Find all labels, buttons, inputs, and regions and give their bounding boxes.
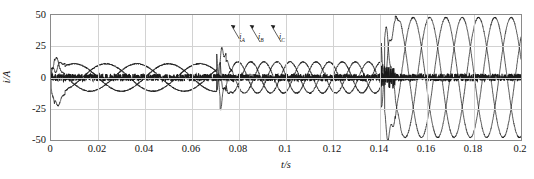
gridline-horizontal xyxy=(51,78,521,79)
x-tick-label: 0.1 xyxy=(278,143,291,154)
x-tick-label: 0.14 xyxy=(370,143,388,154)
y-tick-label: 25 xyxy=(36,40,47,51)
series-label-a: iA xyxy=(239,33,245,43)
y-tick-label: -25 xyxy=(32,102,46,113)
x-tick-label: 0.18 xyxy=(464,143,482,154)
gridline-horizontal xyxy=(51,46,521,47)
series-label-c: iC xyxy=(279,33,285,43)
x-tick-label: 0.08 xyxy=(229,143,247,154)
x-tick-label: 0.16 xyxy=(417,143,435,154)
x-tick-label: 0 xyxy=(47,143,52,154)
y-axis-label: i/A xyxy=(1,71,12,83)
x-tick-label: 0.12 xyxy=(323,143,341,154)
y-tick-label: -50 xyxy=(32,134,46,145)
y-tick-label: 50 xyxy=(36,9,47,20)
chart-figure: i/A t/s 00.020.040.060.080.10.120.140.16… xyxy=(0,0,534,179)
gridline-horizontal xyxy=(51,109,521,110)
x-tick-label: 0.04 xyxy=(135,143,153,154)
x-tick-label: 0.2 xyxy=(513,143,526,154)
series-label-b: iB xyxy=(258,33,264,43)
x-tick-label: 0.02 xyxy=(88,143,106,154)
y-tick-label: 0 xyxy=(41,71,46,82)
x-axis-label: t/s xyxy=(281,159,291,170)
plot-area xyxy=(50,14,522,141)
x-tick-label: 0.06 xyxy=(182,143,200,154)
